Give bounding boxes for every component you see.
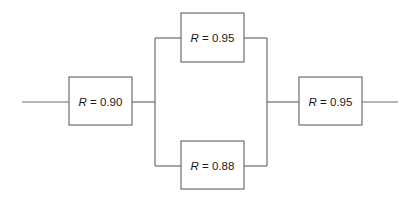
block-a-label: R = 0.90 bbox=[79, 96, 123, 108]
block-d-label: R = 0.95 bbox=[309, 96, 353, 108]
block-b: R = 0.95 bbox=[181, 13, 244, 62]
block-b-label: R = 0.95 bbox=[191, 32, 235, 44]
block-c-label: R = 0.88 bbox=[191, 160, 235, 172]
block-c: R = 0.88 bbox=[181, 141, 244, 189]
reliability-diagram: R = 0.90 R = 0.95 R = 0.88 R = 0.95 bbox=[0, 0, 417, 201]
block-a: R = 0.90 bbox=[69, 77, 132, 125]
block-d: R = 0.95 bbox=[299, 77, 362, 125]
